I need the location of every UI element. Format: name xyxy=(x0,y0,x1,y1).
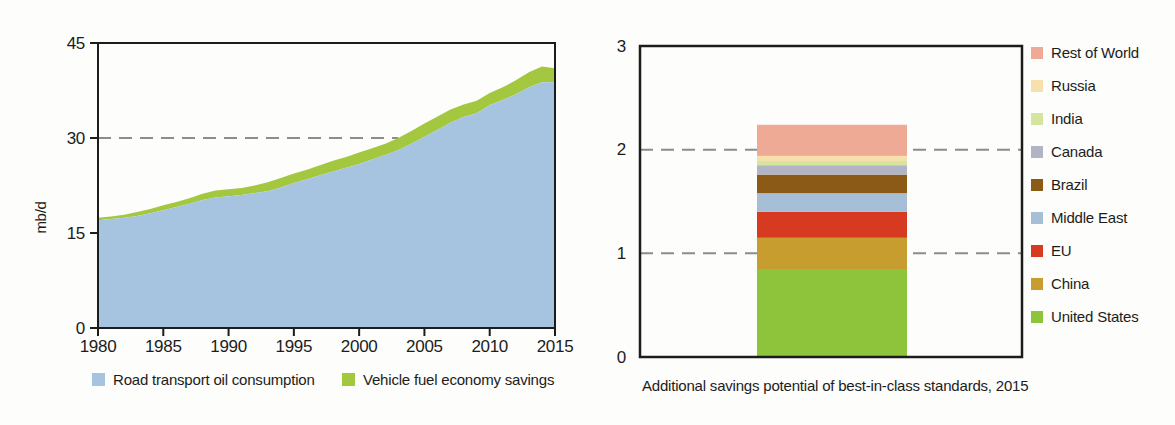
legend-item-united-states: United States xyxy=(1031,308,1138,325)
bar-segment-middle-east xyxy=(757,193,907,212)
legend-item-oil-consumption: Road transport oil consumption xyxy=(92,371,315,388)
x-tick-label: 2005 xyxy=(406,337,443,356)
fuel-economy-savings-swatch-icon xyxy=(342,373,355,386)
page: 015304519801985199019952000200520102015m… xyxy=(0,0,1175,425)
legend-label-canada: Canada xyxy=(1051,143,1102,160)
legend-item-fuel-economy-savings: Vehicle fuel economy savings xyxy=(342,371,554,388)
y-tick-label: 30 xyxy=(67,129,85,148)
bar-segment-russia xyxy=(757,156,907,161)
y-axis-title: mb/d xyxy=(32,201,49,233)
y-tick-label: 2 xyxy=(617,140,626,159)
y-tick-label: 3 xyxy=(617,37,626,56)
bar-segment-china xyxy=(757,238,907,270)
bar-segment-rest-of-world xyxy=(757,125,907,156)
oil-consumption-swatch-icon xyxy=(92,373,105,386)
legend-label-oil-consumption: Road transport oil consumption xyxy=(113,371,315,388)
legend-item-china: China xyxy=(1031,275,1089,292)
russia-swatch-icon xyxy=(1031,80,1043,92)
x-tick-label: 1995 xyxy=(276,337,313,356)
y-tick-label: 0 xyxy=(76,319,85,338)
legend-label-fuel-economy-savings: Vehicle fuel economy savings xyxy=(363,371,554,388)
bar-segment-india xyxy=(757,161,907,165)
legend-label-russia: Russia xyxy=(1051,77,1096,94)
india-swatch-icon xyxy=(1031,113,1043,125)
legend-item-brazil: Brazil xyxy=(1031,176,1087,193)
charts-svg: 015304519801985199019952000200520102015m… xyxy=(0,0,1175,425)
legend-label-middle-east: Middle East xyxy=(1051,209,1127,226)
china-swatch-icon xyxy=(1031,278,1043,290)
bar-segment-brazil xyxy=(757,175,907,194)
x-tick-label: 2015 xyxy=(537,337,574,356)
legend-label-rest-of-world: Rest of World xyxy=(1051,44,1139,61)
legend-label-eu: EU xyxy=(1051,242,1071,259)
legend-label-brazil: Brazil xyxy=(1051,176,1087,193)
legend-item-middle-east: Middle East xyxy=(1031,209,1127,226)
y-tick-label: 0 xyxy=(617,348,626,367)
x-tick-label: 2010 xyxy=(471,337,508,356)
legend-item-rest-of-world: Rest of World xyxy=(1031,44,1139,61)
legend-item-eu: EU xyxy=(1031,242,1071,259)
middle-east-swatch-icon xyxy=(1031,212,1043,224)
legend-label-china: China xyxy=(1051,275,1089,292)
bar-segment-united-states xyxy=(757,270,907,357)
x-tick-label: 1985 xyxy=(145,337,182,356)
y-tick-label: 45 xyxy=(67,34,85,53)
x-tick-label: 1980 xyxy=(80,337,117,356)
legend-label-india: India xyxy=(1051,110,1083,127)
brazil-swatch-icon xyxy=(1031,179,1043,191)
right-chart-caption: Additional savings potential of best-in-… xyxy=(642,377,1028,394)
legend-label-united-states: United States xyxy=(1051,308,1138,325)
bar-segment-canada xyxy=(757,165,907,174)
bar-segment-eu xyxy=(757,212,907,238)
legend-item-canada: Canada xyxy=(1031,143,1102,160)
canada-swatch-icon xyxy=(1031,146,1043,158)
y-tick-label: 1 xyxy=(617,244,626,263)
x-tick-label: 2000 xyxy=(341,337,378,356)
y-tick-label: 15 xyxy=(67,224,85,243)
united-states-swatch-icon xyxy=(1031,311,1043,323)
legend-item-russia: Russia xyxy=(1031,77,1096,94)
x-tick-label: 1990 xyxy=(210,337,247,356)
eu-swatch-icon xyxy=(1031,245,1043,257)
legend-item-india: India xyxy=(1031,110,1083,127)
rest-of-world-swatch-icon xyxy=(1031,47,1043,59)
